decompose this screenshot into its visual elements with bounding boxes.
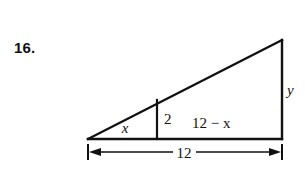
label-base-right-segment: 12 − x (192, 115, 231, 131)
triangle-hypotenuse-line (88, 40, 282, 139)
label-base-dimension: 12 (177, 145, 192, 161)
geometry-diagram: x 2 12 − x y 12 (0, 0, 305, 181)
label-interior-altitude: 2 (164, 111, 172, 127)
triangle-outline (88, 40, 282, 139)
figure-root: 16. x 2 12 − x y 12 (0, 0, 305, 181)
dimension-arrowhead-left (89, 148, 101, 156)
label-base-left-segment: x (121, 120, 129, 136)
label-right-leg: y (285, 82, 294, 98)
dimension-arrowhead-right (269, 148, 281, 156)
